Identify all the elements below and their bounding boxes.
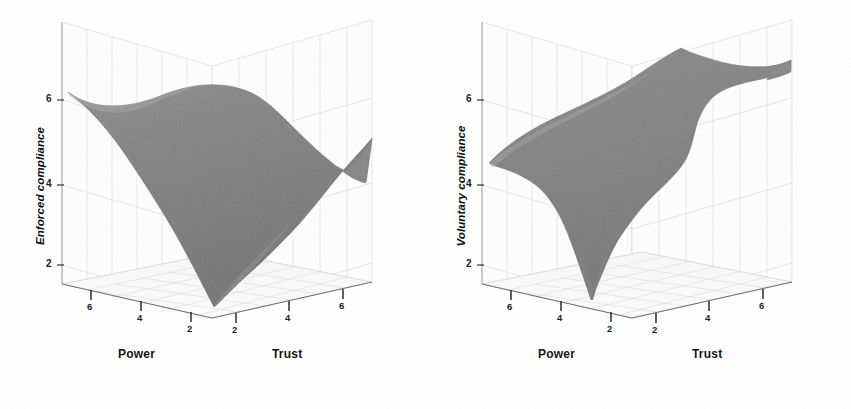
trust-tick-label-4: 4 (705, 312, 710, 323)
voluntary-compliance-surface-plot (425, 0, 850, 409)
z-tick-label-6: 6 (466, 93, 472, 104)
panel-enforced-compliance: Enforced compliance 6 4 2 6 4 2 2 4 6 Po… (0, 0, 425, 409)
trust-tick-label-6: 6 (759, 300, 764, 311)
z-axis-label-enforced: Enforced compliance (34, 120, 46, 252)
power-tick-label-2: 2 (187, 323, 192, 334)
surface-plot-figure: Enforced compliance 6 4 2 6 4 2 2 4 6 Po… (0, 0, 851, 409)
trust-tick-label-2: 2 (652, 324, 657, 335)
trust-tick-label-6: 6 (339, 300, 344, 311)
power-tick-label-4: 4 (137, 312, 142, 323)
trust-tick-label-2: 2 (232, 324, 237, 335)
z-tick-label-2: 2 (466, 258, 472, 269)
x-axis-label-power: Power (538, 347, 575, 361)
power-tick-label-6: 6 (507, 301, 512, 312)
enforced-compliance-surface-plot (0, 0, 425, 409)
z-tick-label-4: 4 (46, 178, 52, 189)
x-axis-label-power: Power (118, 347, 155, 361)
power-tick-label-6: 6 (87, 301, 92, 312)
panel-voluntary-compliance: Voluntary compliance 6 4 2 6 4 2 2 4 6 P… (425, 0, 850, 409)
y-axis-label-trust: Trust (692, 347, 722, 361)
power-tick-label-2: 2 (607, 323, 612, 334)
z-tick-label-2: 2 (46, 258, 52, 269)
z-tick-label-6: 6 (46, 93, 52, 104)
z-tick-label-4: 4 (466, 178, 472, 189)
y-axis-label-trust: Trust (272, 347, 302, 361)
trust-tick-label-4: 4 (285, 312, 290, 323)
power-tick-label-4: 4 (557, 312, 562, 323)
